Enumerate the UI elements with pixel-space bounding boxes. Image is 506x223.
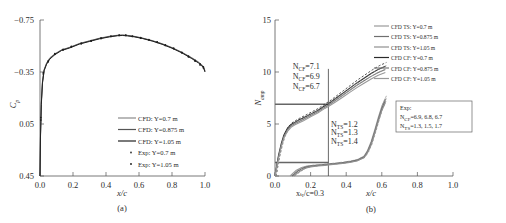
x-tick-label: 0.6 <box>376 180 387 190</box>
exp-data-point <box>90 40 92 42</box>
exp-data-point <box>199 64 201 66</box>
y-tick-label: 0.45 <box>19 171 34 181</box>
panel-a: 0.450.05−0.35−0.75 0.00.20.40.60.81.0 Cp… <box>0 0 253 223</box>
exp-box-title: Exp: <box>400 105 412 111</box>
exp-data-point <box>47 61 49 63</box>
legend-label: CFD: Y=0.875 m <box>138 126 185 133</box>
ncf-annotation: NCF=6.7 <box>293 82 320 92</box>
panel-b-xlabel: x/c <box>365 188 376 198</box>
cfd-curve <box>40 35 205 176</box>
exp-data-point <box>118 35 120 37</box>
exp-data-point <box>165 45 167 47</box>
exp-data-point <box>110 36 112 38</box>
exp-data-point <box>62 49 64 51</box>
panel-b-caption: (b) <box>366 204 376 214</box>
exp-box-nts-row: NTS=1.3, 1.5, 1.7 <box>400 123 442 131</box>
y-tick-label: 10 <box>263 67 272 77</box>
x-tick-label: 1.0 <box>200 180 211 190</box>
legend-label: Exp: Y=1.05 m <box>138 161 180 168</box>
panel-b-axes <box>275 20 453 176</box>
exp-values-box: Exp:NCF=6.9, 6.8, 6.7NTS=1.3, 1.5, 1.7 <box>396 101 472 132</box>
legend-label: CFD TS: Y=1.05 m <box>391 45 436 51</box>
exp-data-point <box>40 119 42 121</box>
exp-data-point <box>71 46 73 48</box>
x-tick-label: 0.4 <box>101 180 112 190</box>
panel-a-ylabel: Cp <box>8 100 20 109</box>
panel-a-curves <box>40 35 205 176</box>
panel-a-legend: CFD: Y=0.7 mCFD: Y=0.875 mCFD: Y=1.05 mE… <box>118 115 185 168</box>
cfd-curve <box>40 35 205 176</box>
legend-dot-swatch <box>130 152 132 154</box>
panel-a-exp-points <box>40 34 204 121</box>
exp-data-point <box>140 37 142 39</box>
y-tick-label: 0.05 <box>19 119 34 129</box>
exp-data-point <box>125 35 127 37</box>
exp-data-point <box>181 52 183 54</box>
x-tick-label: 0.4 <box>341 180 352 190</box>
exp-data-point <box>40 117 42 119</box>
legend-label: CFD CF: Y=0.875 m <box>391 66 439 72</box>
x-tick-label: 0.0 <box>270 180 281 190</box>
exp-box-ncf-row: NCF=6.9, 6.8, 6.7 <box>400 114 442 122</box>
x-tick-label: 0.6 <box>134 180 145 190</box>
y-tick-label: 5 <box>267 119 271 129</box>
panel-a-y-ticks: 0.450.05−0.35−0.75 <box>14 15 44 181</box>
panel-b-ylabel: Namp <box>253 90 265 106</box>
legend-label: CFD: Y=1.05 m <box>138 138 182 145</box>
legend-label: CFD TS: Y=0.875 m <box>391 34 439 40</box>
panel-b-y-ticks: 151050 <box>263 15 280 181</box>
cfd-curve <box>40 35 205 176</box>
exp-data-point <box>54 53 56 55</box>
panel-b-x-ticks: 0.00.20.40.60.81.0 <box>270 172 459 190</box>
legend-dot-swatch <box>130 163 132 165</box>
transition-location-annotation: xₜᵣ/c=0.3 <box>296 189 324 198</box>
figure-container: 0.450.05−0.35−0.75 0.00.20.40.60.81.0 Cp… <box>0 0 506 223</box>
legend-label: CFD: Y=0.7 m <box>138 115 178 122</box>
legend-label: CFD TS: Y=0.7 m <box>391 24 433 30</box>
ncf-annotation: NCF=6.9 <box>293 72 320 82</box>
y-tick-label: −0.75 <box>14 15 34 25</box>
y-tick-label: 15 <box>263 15 272 25</box>
exp-data-point <box>42 73 44 75</box>
panel-a-caption: (a) <box>117 203 127 213</box>
ncf-annotation: NCF=7.1 <box>293 62 320 72</box>
exp-data-point <box>173 48 175 50</box>
nts-annotation: NTS=1.4 <box>331 137 358 147</box>
panel-a-svg: 0.450.05−0.35−0.75 0.00.20.40.60.81.0 Cp… <box>0 0 253 223</box>
x-tick-label: 0.8 <box>412 180 423 190</box>
exp-data-point <box>132 36 134 38</box>
legend-label: CFD CF: Y=0.7 m <box>391 55 433 61</box>
panel-b: 151050 0.00.20.40.60.81.0 NCF=7.1NCF=6.9… <box>253 0 506 223</box>
exp-data-point <box>100 38 102 40</box>
exp-data-point <box>203 67 205 69</box>
exp-data-point <box>80 43 82 45</box>
y-tick-label: −0.35 <box>14 67 34 77</box>
legend-label: Exp: Y=0.7 m <box>138 149 176 156</box>
panel-a-xlabel: x/c <box>116 188 127 198</box>
exp-data-point <box>148 39 150 41</box>
x-tick-label: 0.2 <box>68 180 79 190</box>
exp-data-point <box>194 60 196 62</box>
x-tick-label: 0.0 <box>35 180 46 190</box>
legend-label: CFD CF: Y=1.05 m <box>391 76 436 82</box>
x-tick-label: 0.8 <box>167 180 178 190</box>
exp-data-point <box>188 56 190 58</box>
exp-data-point <box>156 42 158 44</box>
x-tick-label: 1.0 <box>448 180 459 190</box>
panel-b-svg: 151050 0.00.20.40.60.81.0 NCF=7.1NCF=6.9… <box>253 0 506 223</box>
panel-a-axes <box>40 20 205 176</box>
